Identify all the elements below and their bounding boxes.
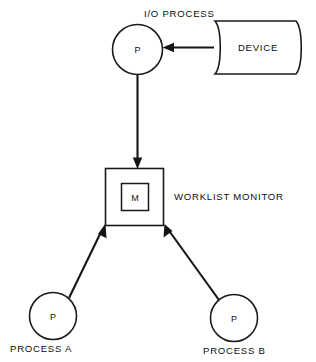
process-a-glyph: P [50,312,56,322]
edge-process-b-to-monitor [164,224,220,300]
edge-device-to-io-process [163,43,215,52]
io-process-caption: I/O PROCESS [144,8,215,19]
edge-process-a-to-monitor [69,224,107,299]
edge-process-b-to-monitor-arrowhead [164,224,173,238]
edge-process-a-to-monitor-line [69,232,101,298]
process-flow-diagram: P I/O PROCESS DEVICE M WORKLIST MONITOR … [0,0,316,362]
device-label: DEVICE [238,42,278,53]
monitor-glyph: M [131,193,139,203]
edge-process-b-to-monitor-line [170,232,219,300]
process-b-glyph: P [231,314,237,324]
node-process-b[interactable]: P [211,295,258,342]
worklist-monitor-caption: WORKLIST MONITOR [174,191,284,202]
process-b-caption: PROCESS B [203,345,266,356]
edge-device-to-io-process-arrowhead [163,43,175,52]
edge-io-process-to-monitor [133,74,142,169]
node-process-a[interactable]: P [30,293,77,340]
diagram-canvas: P I/O PROCESS DEVICE M WORKLIST MONITOR … [0,0,316,362]
node-worklist-monitor[interactable]: M [106,169,164,226]
io-process-glyph: P [134,45,140,55]
node-io-process[interactable]: P [113,25,163,75]
process-a-caption: PROCESS A [10,343,72,354]
node-device[interactable]: DEVICE [215,21,301,74]
edge-io-process-to-monitor-arrowhead [133,158,142,170]
